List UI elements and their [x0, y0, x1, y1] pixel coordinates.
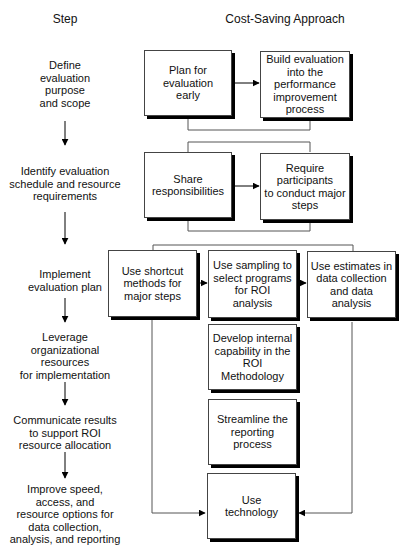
box-label: Share responsibilities [152, 173, 224, 198]
box-label: Use estimates in data collection and dat… [310, 260, 393, 310]
box-use-technology: Use technology [207, 473, 296, 539]
box-share-responsibilities: Share responsibilities [144, 152, 232, 218]
box-streamline-reporting: Streamline the reporting process [208, 399, 297, 465]
step-communicate-results: Communicate results to support ROI resou… [0, 414, 130, 452]
box-build-evaluation-into-process: Build evaluation into the performance im… [260, 51, 350, 118]
box-develop-internal-capability: Develop internal capability in the ROI M… [208, 324, 297, 390]
box-label: Use shortcut methods for major steps [122, 265, 184, 303]
box-use-shortcut-methods: Use shortcut methods for major steps [108, 250, 197, 317]
box-require-participants: Require participants to conduct major st… [260, 153, 350, 220]
box-label: Require participants to conduct major st… [264, 162, 345, 212]
box-label: Streamline the reporting process [217, 413, 288, 451]
step-identify-schedule: Identify evaluation schedule and resourc… [0, 165, 130, 203]
box-label: Use technology [225, 494, 278, 519]
step-improve-speed: Improve speed, access, and resource opti… [0, 483, 130, 546]
box-label: Use sampling to select programs for ROI … [213, 259, 292, 309]
step-define-purpose: Define evaluation purpose and scope [0, 59, 130, 109]
step-leverage-resources: Leverage organizational resources for im… [0, 331, 130, 381]
box-label: Develop internal capability in the ROI M… [211, 332, 294, 382]
box-use-estimates: Use estimates in data collection and dat… [307, 251, 396, 318]
box-use-sampling: Use sampling to select programs for ROI … [208, 250, 297, 318]
box-plan-evaluation-early: Plan for evaluation early [144, 50, 232, 116]
box-label: Plan for evaluation early [163, 64, 213, 102]
box-label: Build evaluation into the performance im… [266, 53, 344, 116]
